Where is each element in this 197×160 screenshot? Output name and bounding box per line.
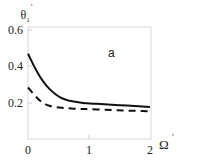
panel-annotation: a (108, 46, 115, 60)
dashed-curve (28, 88, 150, 112)
x-tick-label: 2 (147, 143, 153, 157)
plot-frame (28, 27, 151, 139)
x-axis: 0 1 2 Ω ' (25, 132, 174, 157)
y-axis-label: θ1 (20, 8, 30, 24)
x-axis-label: Ω (159, 137, 169, 152)
y-tick-label: 0.6 (8, 23, 23, 37)
y-axis-label-prime: ' (31, 3, 33, 12)
line-chart: 0.6 0.4 0.2 θ1 ' 0 1 2 Ω ' a (0, 0, 197, 160)
x-axis-label-prime: ' (172, 132, 174, 142)
x-tick-label: 0 (25, 143, 31, 157)
y-tick-label: 0.4 (8, 59, 23, 73)
solid-curve (28, 54, 150, 107)
x-tick-label: 1 (86, 143, 92, 157)
y-tick-label: 0.2 (8, 96, 23, 110)
